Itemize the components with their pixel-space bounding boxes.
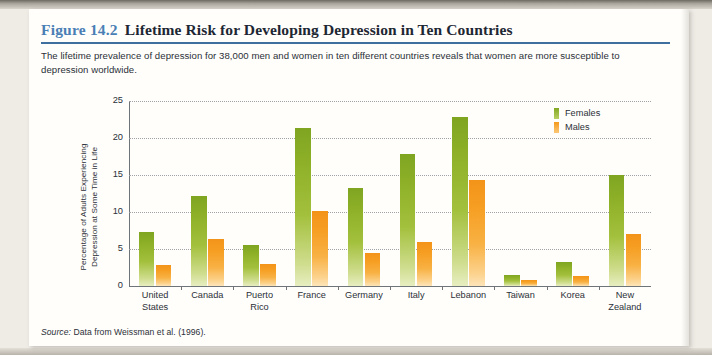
source-label: Source: [41,327,71,337]
bar-group [295,101,328,286]
x-axis-label-line1: Taiwan [506,290,535,300]
bar-females [609,175,625,286]
source-text: Data from Weissman et al. (1996). [71,327,206,337]
x-axis-category-labels: UnitedStatesCanadaPuertoRicoFranceGerman… [129,290,651,320]
bar-males [417,242,433,286]
source-note: Source: Data from Weissman et al. (1996)… [41,327,206,337]
x-axis-label: Germany [338,290,390,302]
x-axis-label: Lebanon [442,290,494,302]
bar-males [521,280,537,286]
legend-swatch-males-icon [554,122,559,133]
y-axis-title: Percentage of Adults Experiencing Depres… [79,117,103,297]
legend-label-females: Females [565,108,600,118]
legend-item-females: Females [554,107,644,119]
x-axis-label: Taiwan [494,290,546,302]
x-axis-label: PuertoRico [233,290,285,313]
y-axis-title-line2: Depression at Some Time in Life [90,147,99,267]
x-axis-label: France [286,290,338,302]
chart-legend: Females Males [554,107,644,135]
x-axis-label-line1: Korea [560,290,585,300]
x-axis-label-line1: Germany [345,290,383,300]
x-axis-label: Korea [547,290,599,302]
bar-group [452,101,485,286]
bar-females [191,196,207,286]
x-axis-label-line1: New [616,290,634,300]
bar-males [626,234,642,286]
bar-group [191,101,224,286]
legend-swatch-females-icon [554,108,559,119]
x-axis-label-line2: Zealand [608,302,641,312]
x-axis-label-line1: Puerto [246,290,273,300]
bar-females [139,232,155,286]
figure-number: Figure 14.2 [41,21,118,38]
bar-males [469,180,485,286]
bar-females [295,128,311,286]
y-axis-line [129,101,130,287]
bar-group [243,101,276,286]
y-axis-tick-labels: 0510152025 [103,101,123,287]
bar-females [556,262,572,286]
bar-females [504,275,520,286]
bar-group [400,101,433,286]
x-axis-label-line1: Italy [408,290,425,300]
page-top-shadow [0,0,712,9]
y-axis-title-line1: Percentage of Adults Experiencing [79,143,88,270]
bar-females [452,117,468,286]
page-title: Lifetime Risk for Developing Depression … [125,21,513,38]
y-axis-tick-label: 0 [105,280,123,290]
header-divider [41,42,670,44]
x-axis-label-line1: Lebanon [450,290,486,300]
figure-caption: The lifetime prevalence of depression fo… [41,49,645,77]
x-axis-label: Canada [181,290,233,302]
bar-males [365,253,381,286]
bar-males [156,265,172,286]
y-axis-tick-label: 25 [105,95,123,105]
x-axis-label-line2: Rico [250,302,268,312]
bar-males [208,239,224,286]
y-axis-tick-label: 15 [105,169,123,179]
bar-females [400,154,416,286]
x-axis-label: Italy [390,290,442,302]
bar-group [348,101,381,286]
bar-males [573,276,589,286]
scanned-page-background: Figure 14.2Lifetime Risk for Developing … [0,0,712,355]
bar-females [348,188,364,286]
figure-card: Figure 14.2Lifetime Risk for Developing … [29,9,689,346]
y-axis-tick-label: 20 [105,132,123,142]
bar-males [312,211,328,286]
bar-males [260,264,276,286]
bar-group [139,101,172,286]
y-axis-tick-label: 10 [105,206,123,216]
x-axis-label-line1: United [142,290,169,300]
x-axis-label-line2: States [142,302,168,312]
x-axis-label: NewZealand [599,290,651,313]
legend-item-males: Males [554,121,644,133]
x-axis-label-line1: France [297,290,326,300]
page-bottom-shadow [0,348,712,355]
y-axis-tick-label: 5 [105,243,123,253]
chart-container: Percentage of Adults Experiencing Depres… [29,91,689,323]
x-axis-label-line1: Canada [191,290,223,300]
bar-group [504,101,537,286]
figure-header: Figure 14.2Lifetime Risk for Developing … [41,21,665,39]
x-axis-label: UnitedStates [129,290,181,313]
bar-females [243,245,259,286]
legend-label-males: Males [565,122,590,132]
